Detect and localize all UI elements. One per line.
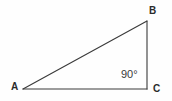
geometry-figure: A B C 90°	[0, 0, 172, 101]
vertex-label-b: B	[149, 6, 156, 16]
right-triangle-drawing	[0, 0, 172, 101]
vertex-label-a: A	[11, 82, 18, 92]
right-angle-measure-label: 90°	[121, 69, 138, 80]
vertex-label-c: C	[153, 84, 160, 94]
